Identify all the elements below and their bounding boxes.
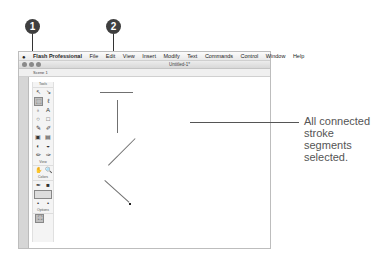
eraser-tool-icon[interactable]: ✑ [45, 152, 52, 159]
zoom-tool-icon[interactable]: 🔍 [45, 167, 52, 174]
annotation-leader [190, 122, 299, 123]
stroke-color-icon[interactable]: ✒ [35, 182, 42, 189]
close-window-button[interactable] [22, 62, 27, 67]
minimize-window-button[interactable] [29, 62, 34, 67]
menu-insert[interactable]: Insert [142, 52, 156, 60]
lasso-tool-icon[interactable]: ℓ [45, 98, 52, 105]
selection-tool-icon[interactable]: ↖ [35, 89, 42, 96]
oval-tool-icon[interactable]: ○ [35, 116, 42, 123]
text-tool-icon[interactable]: A [45, 107, 52, 114]
left-panel-strip [19, 77, 29, 248]
menu-view[interactable]: View [123, 52, 135, 60]
pen-tool-icon[interactable]: ♁ [35, 107, 42, 114]
menu-window[interactable]: Window [266, 52, 286, 60]
rectangle-tool-icon[interactable]: □ [45, 116, 52, 123]
menu-bar: ● Flash Professional File Edit View Inse… [19, 52, 270, 61]
subselection-tool-icon[interactable]: ↘ [45, 89, 52, 96]
stroke-endpoint [129, 203, 131, 205]
callout-2: 2 [106, 19, 121, 34]
apple-icon[interactable]: ● [22, 53, 26, 61]
menu-file[interactable]: File [89, 52, 98, 60]
annotation-line-3: selected. [304, 151, 384, 163]
menu-text[interactable]: Text [187, 52, 197, 60]
stage[interactable] [29, 77, 270, 248]
stroke-horizontal[interactable] [100, 92, 133, 93]
deco-tool-icon[interactable]: ▣ [35, 134, 42, 141]
scene-bar: Scene 1 [19, 69, 270, 77]
brush-tool-icon[interactable]: ✐ [45, 125, 52, 132]
title-bar: Untitled-1* [19, 61, 270, 69]
annotation-line-2: stroke segments [304, 127, 384, 151]
zoom-window-button[interactable] [36, 62, 41, 67]
flash-window: ● Flash Professional File Edit View Inse… [18, 51, 271, 249]
fill-color-icon[interactable]: ■ [45, 182, 52, 189]
bone-tool-icon[interactable]: ▤ [45, 134, 52, 141]
swap-colors-icon[interactable]: • [35, 200, 42, 207]
stroke-vertical[interactable] [117, 100, 118, 133]
ink-bottle-tool-icon[interactable]: ◒ [45, 143, 52, 150]
free-transform-tool-icon[interactable]: ⬚ [34, 97, 43, 106]
eyedropper-tool-icon[interactable]: ✏ [35, 152, 42, 159]
tools-panel: Tools ↖↘ ⬚ℓ ♁A ○□ ✎✐ ▣▤ ◐◒ ✏✑ View ✋🔍 Co… [32, 82, 54, 242]
menu-control[interactable]: Control [241, 52, 259, 60]
menu-edit[interactable]: Edit [106, 52, 115, 60]
no-color-icon[interactable]: • [45, 200, 52, 207]
document-title: Untitled-1* [169, 61, 190, 68]
menu-help[interactable]: Help [293, 52, 304, 60]
black-white-swatch-icon[interactable] [34, 190, 52, 199]
menu-commands[interactable]: Commands [205, 52, 233, 60]
hand-tool-icon[interactable]: ✋ [35, 167, 42, 174]
annotation-text: All connected stroke segments selected. [304, 115, 384, 163]
pencil-tool-icon[interactable]: ✎ [35, 125, 42, 132]
menu-app-name[interactable]: Flash Professional [33, 52, 82, 60]
menu-modify[interactable]: Modify [164, 52, 180, 60]
snap-to-objects-icon[interactable]: ⛶ [35, 214, 44, 223]
callout-1: 1 [25, 19, 40, 34]
scene-label[interactable]: Scene 1 [33, 70, 48, 75]
annotation-line-1: All connected [304, 115, 384, 127]
paint-bucket-tool-icon[interactable]: ◐ [35, 143, 42, 150]
